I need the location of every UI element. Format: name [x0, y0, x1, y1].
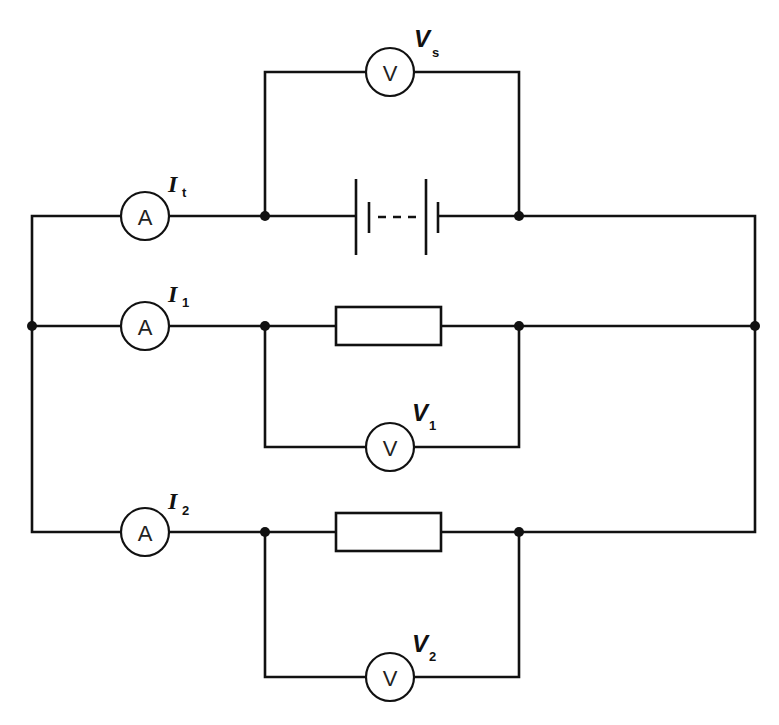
label-i1-sub: 1 — [182, 295, 189, 310]
battery-icon — [356, 179, 438, 255]
ammeter-2: A — [121, 508, 169, 556]
ammeter-symbol: A — [138, 315, 153, 340]
voltmeter-supply: V — [366, 48, 414, 96]
circuit-diagram: V V s A I t A I 1 V V 1 — [0, 0, 779, 725]
ammeter-symbol: A — [138, 521, 153, 546]
label-it-main: I — [167, 171, 179, 197]
voltmeter-1: V — [366, 423, 414, 471]
label-i1-main: I — [167, 281, 179, 307]
label-vs-sub: s — [432, 45, 439, 60]
label-it: I t — [167, 171, 187, 200]
junction-dot — [514, 211, 524, 221]
label-v1-main: V — [412, 399, 430, 426]
label-it-sub: t — [182, 185, 187, 200]
label-i2-sub: 2 — [182, 503, 189, 518]
resistor-2 — [336, 513, 441, 551]
ammeter-total: A — [121, 192, 169, 240]
junction-dot — [514, 527, 524, 537]
junction-dot — [514, 321, 524, 331]
label-i2-main: I — [167, 488, 179, 514]
label-vs-main: V — [414, 25, 432, 52]
battery-branch — [169, 179, 519, 255]
junction-dot — [750, 321, 760, 331]
label-i1: I 1 — [167, 281, 189, 310]
voltmeter-symbol: V — [383, 61, 398, 86]
ammeter-symbol: A — [138, 205, 153, 230]
label-i2: I 2 — [167, 488, 189, 518]
ammeter-1: A — [121, 302, 169, 350]
voltmeter-symbol: V — [383, 436, 398, 461]
label-v2-sub: 2 — [429, 649, 436, 664]
label-v1: V 1 — [412, 399, 436, 433]
label-vs: V s — [414, 25, 439, 60]
junction-dot — [260, 321, 270, 331]
voltmeter-2: V — [366, 653, 414, 701]
junctions — [27, 211, 760, 537]
junction-dot — [27, 321, 37, 331]
junction-dot — [260, 211, 270, 221]
left-rail — [32, 216, 121, 532]
voltmeter-symbol: V — [383, 666, 398, 691]
label-v1-sub: 1 — [429, 418, 436, 433]
resistor-1 — [336, 307, 441, 345]
junction-dot — [260, 527, 270, 537]
label-v2-main: V — [412, 630, 430, 657]
right-rail — [519, 216, 755, 532]
branch-2 — [169, 513, 519, 551]
label-v2: V 2 — [412, 630, 436, 664]
